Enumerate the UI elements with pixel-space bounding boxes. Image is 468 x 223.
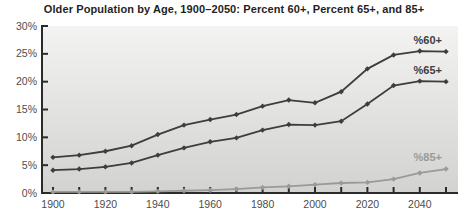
x-tick-label: 1920 xyxy=(94,198,118,210)
x-tick-label: 1940 xyxy=(146,198,170,210)
y-tick-label: 5% xyxy=(22,159,37,171)
series-label: %60+ xyxy=(414,34,442,46)
x-tick-label: 1900 xyxy=(41,198,65,210)
line-chart: 0%5%10%15%20%25%30%190019201940196019802… xyxy=(0,0,468,223)
y-tick-label: 25% xyxy=(16,47,37,59)
x-tick-label: 1980 xyxy=(251,198,275,210)
x-tick-label: 2040 xyxy=(408,198,432,210)
y-tick-label: 10% xyxy=(16,131,37,143)
series-label: %65+ xyxy=(414,64,442,76)
y-tick-label: 0% xyxy=(22,187,37,199)
x-tick-label: 1960 xyxy=(199,198,223,210)
series-label: %85+ xyxy=(414,151,442,163)
older-population-chart-figure: Older Population by Age, 1900–2050: Perc… xyxy=(0,0,468,223)
y-tick-label: 20% xyxy=(16,75,37,87)
x-tick-label: 2000 xyxy=(303,198,327,210)
y-tick-label: 30% xyxy=(16,20,37,32)
y-tick-label: 15% xyxy=(16,103,37,115)
x-tick-label: 2020 xyxy=(356,198,380,210)
